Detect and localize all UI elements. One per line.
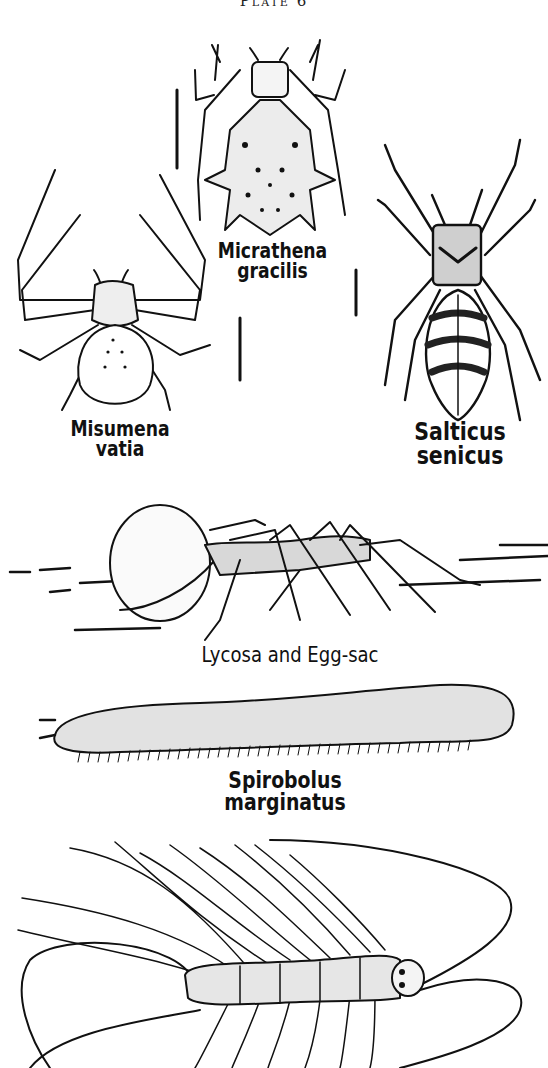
house-centipede-drawing — [18, 840, 521, 1068]
lycosa-egg-sac-drawing — [10, 505, 548, 640]
label-line-species: gracilis — [213, 262, 332, 282]
spirobolus-marginatus-drawing — [40, 685, 514, 762]
label-misumena-vatia: Misumena vatia — [67, 420, 174, 460]
misumena-vatia-drawing — [18, 170, 210, 410]
plate-illustrations — [0, 0, 548, 1068]
label-micrathena-gracilis: Micrathena gracilis — [213, 242, 332, 282]
label-salticus-senicus: Salticus senicus — [411, 420, 509, 468]
salticus-senicus-drawing — [378, 140, 540, 420]
label-spirobolus-marginatus: Spirobolus marginatus — [166, 770, 404, 814]
micrathena-gracilis-drawing — [195, 40, 345, 235]
label-line-species: senicus — [411, 444, 509, 468]
label-lycosa-egg-sac: Lycosa and Egg-sac — [183, 645, 396, 666]
label-line-species: vatia — [67, 440, 174, 460]
